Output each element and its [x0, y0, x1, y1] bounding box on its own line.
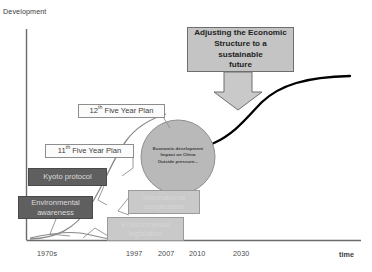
kyoto-label: Kyoto protocol [43, 172, 92, 181]
callout-11th-five-year-plan[interactable]: 11th Five Year Plan [45, 144, 134, 158]
x-tick-label-1997: 1997 [126, 250, 142, 258]
cooperation-line1: International [143, 193, 185, 202]
callout-environmental-awareness[interactable]: Environmental awareness [18, 196, 93, 219]
plan11-text: Five Year Plan [70, 146, 121, 155]
connector-plan11 [122, 157, 133, 176]
callout-environmental-legislation[interactable]: Environmental legislation [107, 217, 184, 241]
x-tick-label-2030: 2030 [233, 250, 249, 258]
diagram-canvas: Development time 1970s 1997 2007 2010 20… [0, 0, 372, 272]
chart-vector-layer [0, 0, 372, 272]
awareness-line1: Environmental [31, 198, 80, 207]
x-tick-label-2010: 2010 [189, 250, 205, 258]
x-axis-title: time [339, 251, 354, 259]
awareness-line2: awareness [31, 208, 80, 217]
callout-adjusting-economic-structure[interactable]: Adjusting the Economic Structure to a su… [187, 27, 294, 72]
legislation-line2: legislation [121, 229, 170, 238]
plan11-number: 11 [58, 146, 66, 155]
callout-international-cooperation[interactable]: International cooperation [128, 190, 200, 214]
down-arrow-shape [214, 72, 262, 110]
y-axis-title: Development [3, 8, 46, 16]
callout-12th-five-year-plan[interactable]: 12th Five Year Plan [78, 104, 165, 118]
circle-annotation-text: Economic development Impact on China Out… [145, 146, 211, 165]
top-callout-line1: Adjusting the Economic [192, 28, 289, 39]
legislation-line1: Environmental [121, 220, 170, 229]
x-tick-label-2007: 2007 [158, 250, 174, 258]
callout-kyoto-protocol[interactable]: Kyoto protocol [28, 168, 107, 186]
plan12-number: 12 [90, 106, 98, 115]
x-tick-label-1970s: 1970s [37, 250, 57, 258]
plan12-text: Five Year Plan [102, 106, 153, 115]
cooperation-line2: cooperation [143, 202, 185, 211]
top-callout-line2: Structure to a sustainable [192, 39, 289, 61]
top-callout-line3: future [192, 60, 289, 71]
circle-line3: Outside pressure... [145, 159, 211, 165]
